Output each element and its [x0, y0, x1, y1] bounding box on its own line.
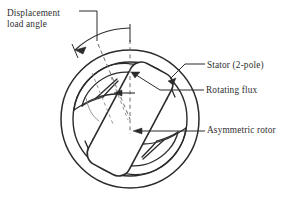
figure-root: Displacement load angle Stator (2-pole) … — [0, 0, 308, 212]
label-displacement-line2: load angle — [7, 19, 60, 30]
label-displacement-load-angle: Displacement load angle — [7, 8, 60, 29]
displacement-load-angle-arc — [72, 24, 130, 58]
label-rotating-flux: Rotating flux — [206, 85, 257, 96]
diagram-canvas — [0, 0, 308, 212]
label-displacement-line1: Displacement — [7, 8, 60, 18]
label-stator: Stator (2-pole) — [207, 60, 264, 71]
label-asymmetric-rotor: Asymmetric rotor — [207, 125, 276, 136]
